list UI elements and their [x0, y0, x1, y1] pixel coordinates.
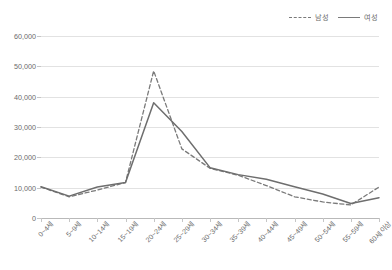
- series-line-male: [41, 71, 379, 205]
- chart-legend: 남성 여성: [0, 11, 378, 23]
- y-axis-tick-label: 40,000: [14, 92, 36, 101]
- x-axis-tick-label: 40~44세: [255, 219, 280, 244]
- dashed-line-icon: [289, 14, 311, 21]
- x-axis-tick-label: 35~39세: [227, 219, 252, 244]
- series-container: [41, 36, 379, 218]
- x-axis-tick-label: 60세 이상: [366, 219, 392, 246]
- y-axis-tick-label: 30,000: [14, 123, 36, 132]
- y-axis-tick-label: 20,000: [14, 153, 36, 162]
- y-axis-tick-label: 0: [32, 214, 36, 223]
- x-axis-tick-label: 15~19세: [114, 219, 139, 244]
- line-chart: 남성 여성 010,00020,00030,00040,00050,00060,…: [0, 0, 392, 270]
- x-axis-tick-label: 20~24세: [143, 219, 168, 244]
- legend-item-female[interactable]: 여성: [338, 11, 378, 23]
- x-axis-tick-label: 0~4세: [35, 219, 55, 239]
- x-axis-labels: 0~4세5~9세10~14세15~19세20~24세25~29세30~34세35…: [41, 219, 379, 267]
- solid-line-icon: [338, 14, 360, 21]
- x-axis-tick-label: 45~49세: [283, 219, 308, 244]
- series-line-female: [41, 103, 379, 204]
- legend-label-female: 여성: [364, 13, 378, 22]
- x-axis-tick-mark: [379, 218, 380, 222]
- plot-area: 010,00020,00030,00040,00050,00060,000: [41, 36, 379, 218]
- x-axis-tick-label: 10~14세: [86, 219, 111, 244]
- y-axis-tick-label: 60,000: [14, 32, 36, 41]
- x-axis-tick-label: 5~9세: [64, 219, 84, 239]
- x-axis-tick-label: 55~59세: [340, 219, 365, 244]
- y-axis-tick-label: 50,000: [14, 62, 36, 71]
- legend-item-male[interactable]: 남성: [289, 11, 329, 23]
- x-axis-tick-label: 25~29세: [171, 219, 196, 244]
- legend-label-male: 남성: [315, 13, 329, 22]
- y-axis-tick-label: 10,000: [14, 183, 36, 192]
- x-axis-tick-label: 30~34세: [199, 219, 224, 244]
- x-axis-tick-label: 50~54세: [312, 219, 337, 244]
